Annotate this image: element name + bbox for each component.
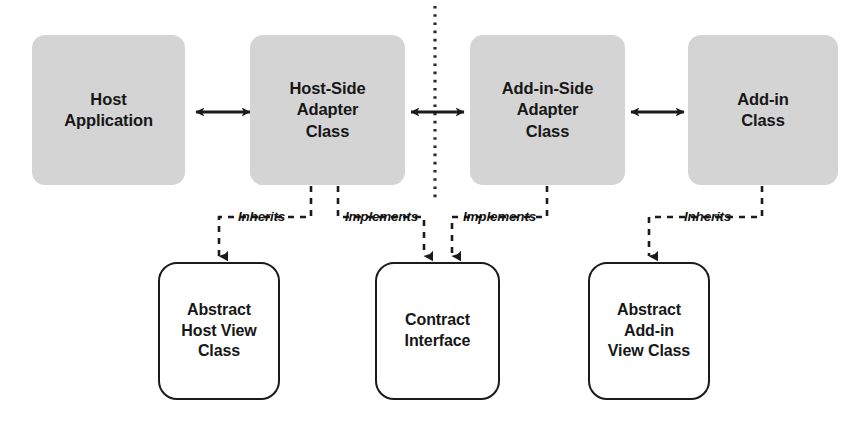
node-host-application[interactable]: Host Application — [32, 35, 185, 185]
edge-label-inherits-host-view: Inherits — [238, 209, 285, 224]
node-abstract-add-in-view-class-label: Abstract Add-in View Class — [608, 300, 690, 362]
node-abstract-add-in-view-class[interactable]: Abstract Add-in View Class — [588, 262, 710, 400]
edge-label-implements-contract-right: Implements — [463, 209, 536, 224]
node-contract-interface[interactable]: Contract Interface — [375, 262, 500, 400]
node-abstract-host-view-class-label: Abstract Host View Class — [181, 300, 256, 362]
node-host-side-adapter-class-label: Host-Side Adapter Class — [289, 78, 365, 142]
node-host-side-adapter-class[interactable]: Host-Side Adapter Class — [250, 35, 405, 185]
diagram-canvas: Host Application Host-Side Adapter Class… — [0, 0, 865, 422]
node-add-in-side-adapter-class-label: Add-in-Side Adapter Class — [502, 78, 593, 142]
node-add-in-class-label: Add-in Class — [737, 89, 789, 132]
node-abstract-host-view-class[interactable]: Abstract Host View Class — [158, 262, 280, 400]
node-add-in-side-adapter-class[interactable]: Add-in-Side Adapter Class — [470, 35, 625, 185]
node-host-application-label: Host Application — [64, 89, 153, 132]
node-contract-interface-label: Contract Interface — [405, 310, 471, 352]
node-add-in-class[interactable]: Add-in Class — [688, 35, 838, 185]
edge-label-implements-contract-left: Implements — [345, 209, 418, 224]
edge-label-inherits-add-in-view: Inherits — [684, 209, 731, 224]
